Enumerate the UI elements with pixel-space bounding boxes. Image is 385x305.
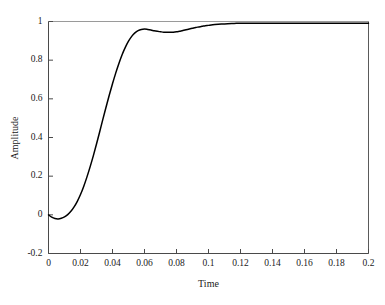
- tick-marks-group: [49, 22, 369, 254]
- x-tick-label: 0.2: [363, 259, 375, 269]
- x-axis-title: Time: [198, 278, 219, 289]
- x-tick-label: 0.1: [203, 259, 215, 269]
- y-tick-label: 1: [0, 17, 43, 27]
- data-series-group: [49, 23, 369, 219]
- x-tick-label: 0: [46, 259, 51, 269]
- step-response-chart: 00.020.040.060.080.10.120.140.160.180.2-…: [0, 0, 385, 305]
- axes-group: [49, 22, 369, 254]
- x-tick-label: 0.04: [104, 259, 121, 269]
- y-tick-label: -0.2: [0, 249, 43, 259]
- y-tick-label: 0.8: [0, 55, 43, 65]
- x-tick-label: 0.12: [232, 259, 249, 269]
- x-tick-label: 0.06: [136, 259, 153, 269]
- x-tick-label: 0.14: [264, 259, 281, 269]
- x-tick-label: 0.02: [72, 259, 89, 269]
- x-tick-label: 0.08: [168, 259, 185, 269]
- y-axis-title: Amplitude: [9, 116, 20, 159]
- y-tick-label: 0.2: [0, 171, 43, 181]
- y-tick-label: 0: [0, 210, 43, 220]
- x-tick-label: 0.16: [296, 259, 313, 269]
- reference-lines-group: [49, 22, 369, 254]
- step-response-curve: [49, 23, 369, 219]
- y-tick-label: 0.6: [0, 94, 43, 104]
- x-tick-label: 0.18: [328, 259, 345, 269]
- y-tick-label: 0.4: [0, 133, 43, 143]
